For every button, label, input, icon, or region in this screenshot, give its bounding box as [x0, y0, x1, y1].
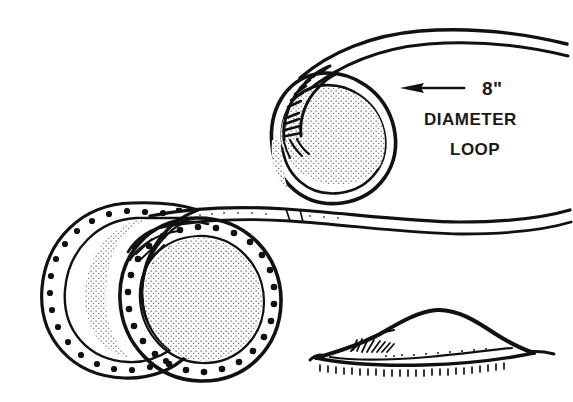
illustration-canvas: 8" DIAMETER LOOP	[0, 0, 573, 402]
background	[0, 0, 573, 402]
dimension-label: 8"	[482, 78, 503, 99]
hose-coiling-figure: 8" DIAMETER LOOP	[0, 0, 573, 402]
loop-label: LOOP	[450, 140, 500, 159]
diameter-label: DIAMETER	[424, 110, 517, 129]
